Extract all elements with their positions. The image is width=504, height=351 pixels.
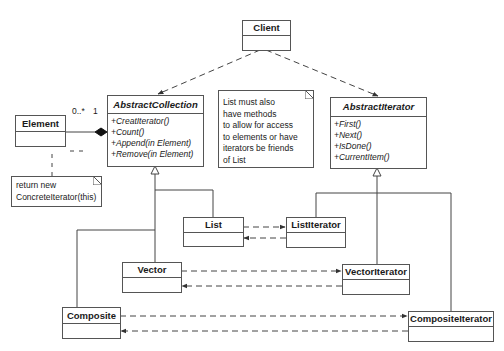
note-line: List must also <box>223 97 309 109</box>
class-name: ListIterator <box>287 218 345 233</box>
class-name: Element <box>16 116 65 132</box>
operation: +IsDone() <box>334 141 423 152</box>
class-client[interactable]: Client <box>242 20 291 51</box>
composition-diamond <box>95 128 107 136</box>
operation: +Count() <box>111 127 200 138</box>
class-abstract-collection[interactable]: AbstractCollection +CreatIterator() +Cou… <box>107 95 204 167</box>
note-line: have methods <box>223 109 309 121</box>
class-composite-iterator[interactable]: CompositeIterator <box>408 311 494 342</box>
class-element[interactable]: Element <box>15 115 66 147</box>
class-name: CompositeIterator <box>409 312 493 327</box>
note-line: return new <box>16 180 97 192</box>
note-line: to allow for access <box>223 120 309 132</box>
note-line: iterators be friends <box>223 143 309 155</box>
generalization-triangle-collection <box>151 166 159 174</box>
generalization-triangle-iterator <box>373 168 381 176</box>
operation: +Next() <box>334 130 423 141</box>
operation: +CurrentItem() <box>334 152 423 163</box>
class-name: AbstractCollection <box>108 96 203 114</box>
class-vector-iterator[interactable]: VectorIterator <box>342 264 410 295</box>
operation: +CreatIterator() <box>111 116 200 127</box>
class-abstract-iterator[interactable]: AbstractIterator +First() +Next() +IsDon… <box>330 97 427 169</box>
multiplicity-collection-end: 1 <box>93 106 98 116</box>
note-line: ConcreteIterator(this) <box>16 192 97 204</box>
class-vector[interactable]: Vector <box>122 262 182 293</box>
multiplicity-element-end: 0..* <box>72 106 85 116</box>
note-friends: List must also have methods to allow for… <box>218 90 314 168</box>
note-fold-icon <box>93 176 102 185</box>
class-list-iterator[interactable]: ListIterator <box>286 217 346 248</box>
note-line: of List <box>223 155 309 167</box>
operations-list: +First() +Next() +IsDone() +CurrentItem(… <box>331 117 426 165</box>
note-create-iterator: return new ConcreteIterator(this) <box>11 176 102 207</box>
class-name: Vector <box>123 263 181 278</box>
class-name: AbstractIterator <box>331 98 426 117</box>
operation: +First() <box>334 119 423 130</box>
operation: +Remove(in Element) <box>111 149 200 160</box>
class-composite[interactable]: Composite <box>62 307 121 339</box>
class-name: List <box>184 218 243 233</box>
operations-list: +CreatIterator() +Count() +Append(in Ele… <box>108 114 203 162</box>
note-fold-icon <box>305 90 314 99</box>
class-list[interactable]: List <box>183 217 244 247</box>
note-line: to elements or have <box>223 132 309 144</box>
class-name: Composite <box>63 308 120 324</box>
operation: +Append(in Element) <box>111 138 200 149</box>
class-name: Client <box>243 21 290 36</box>
class-name: VectorIterator <box>343 265 409 280</box>
